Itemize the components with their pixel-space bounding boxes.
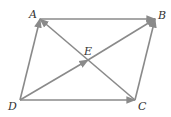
- vector-CB: [135, 19, 155, 100]
- label-E: E: [83, 45, 92, 58]
- label-D: D: [7, 100, 17, 113]
- vector-CA: [40, 19, 135, 100]
- label-B: B: [157, 9, 166, 22]
- vector-EB: [88, 19, 155, 60]
- label-A: A: [28, 8, 37, 21]
- vector-DE: [20, 60, 88, 100]
- label-C: C: [138, 100, 147, 113]
- parallelogram-diagram: A B C D E: [0, 0, 171, 117]
- vector-DA: [20, 19, 40, 100]
